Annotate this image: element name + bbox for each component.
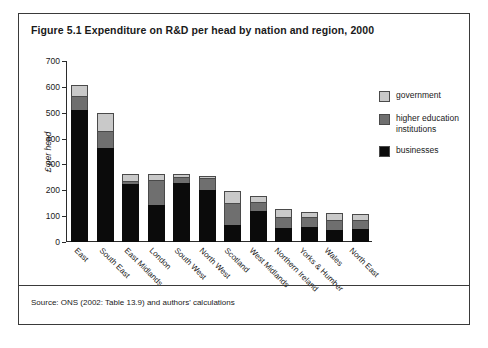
legend-swatch-higher_education: [379, 114, 390, 125]
y-axis-tick-label: 0: [55, 237, 60, 247]
y-axis-tick: [62, 164, 66, 165]
bar-column[interactable]: [199, 176, 216, 242]
y-axis-tick-label: 100: [46, 211, 60, 221]
bar-column[interactable]: [122, 174, 139, 241]
legend-label: higher education institutions: [396, 113, 462, 134]
y-axis-tick: [62, 242, 66, 243]
legend-item[interactable]: government: [379, 90, 467, 102]
y-axis-tick: [62, 87, 66, 88]
figure-title: Figure 5.1 Expenditure on R&D per head b…: [31, 24, 374, 36]
y-axis-tick: [62, 113, 66, 114]
bar-segment[interactable]: [301, 227, 318, 243]
bar-segment[interactable]: [224, 203, 241, 226]
y-axis-tick-label: 600: [46, 82, 60, 92]
figure-container: Figure 5.1 Expenditure on R&D per head b…: [18, 13, 470, 325]
bar-segment[interactable]: [352, 229, 369, 242]
y-axis-tick-label: 400: [46, 134, 60, 144]
bar-column[interactable]: [301, 212, 318, 241]
y-axis-tick-label: 700: [46, 56, 60, 66]
y-axis-tick: [62, 190, 66, 191]
bar-column[interactable]: [148, 174, 165, 241]
plot-area: £ per head 7006005004003002001000: [66, 61, 372, 242]
bar-segment[interactable]: [148, 205, 165, 242]
y-axis-tick: [62, 216, 66, 217]
bar-segment[interactable]: [71, 110, 88, 242]
x-axis-tick-label: Wales: [322, 246, 344, 268]
bar-column[interactable]: [224, 191, 241, 241]
legend-swatch-businesses: [379, 146, 390, 157]
bar-column[interactable]: [97, 113, 114, 241]
x-axis-tick-label: East: [73, 246, 91, 264]
x-axis-tick-label: North East: [347, 246, 380, 279]
bar-segment[interactable]: [97, 131, 114, 149]
bar-column[interactable]: [352, 214, 369, 241]
chart-legend: governmenthigher education institutionsb…: [379, 90, 467, 168]
bar-segment[interactable]: [97, 113, 114, 131]
bar-series-group: [67, 61, 372, 241]
x-axis-tick-label: Yorks & Humber: [297, 246, 344, 293]
legend-swatch-government: [379, 91, 390, 102]
bar-column[interactable]: [275, 209, 292, 241]
y-axis-tick-label: 200: [46, 185, 60, 195]
bar-segment[interactable]: [97, 148, 114, 242]
source-note: Source: ONS (2002: Table 13.9) and autho…: [31, 298, 235, 307]
y-axis-tick: [62, 139, 66, 140]
bar-column[interactable]: [326, 213, 343, 241]
bar-segment[interactable]: [326, 230, 343, 242]
bar-segment[interactable]: [275, 228, 292, 242]
bar-segment[interactable]: [173, 183, 190, 242]
bar-column[interactable]: [71, 85, 88, 241]
legend-item[interactable]: businesses: [379, 145, 467, 157]
y-axis-tick-label: 300: [46, 159, 60, 169]
bar-segment[interactable]: [250, 211, 267, 242]
bar-segment[interactable]: [224, 225, 241, 242]
x-axis-tick-label: London: [148, 246, 173, 271]
legend-item[interactable]: higher education institutions: [379, 113, 467, 134]
y-axis-tick: [62, 61, 66, 62]
bar-segment[interactable]: [71, 96, 88, 112]
x-axis-tick-label: Northern Ireland: [272, 246, 319, 293]
y-axis-tick-label: 500: [46, 108, 60, 118]
bar-column[interactable]: [173, 174, 190, 241]
bar-segment[interactable]: [148, 180, 165, 206]
legend-label: businesses: [396, 145, 439, 156]
legend-label: government: [396, 90, 441, 101]
bar-segment[interactable]: [122, 184, 139, 242]
bar-column[interactable]: [250, 196, 267, 241]
source-divider: [19, 285, 469, 286]
bar-segment[interactable]: [199, 190, 216, 242]
